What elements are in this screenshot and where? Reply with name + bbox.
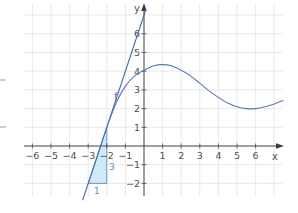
x-tick-label: −6 [25, 150, 39, 161]
y-tick-label: 3 [134, 84, 140, 95]
y-tick-label: 5 [134, 47, 140, 58]
x-tick-label: −5 [44, 150, 58, 161]
x-tick-label: −2 [100, 150, 114, 161]
x-tick-label: 2 [178, 150, 184, 161]
y-tick-label: −2 [126, 178, 140, 189]
x-axis-label: x [272, 151, 278, 162]
x-tick-label: 1 [160, 150, 166, 161]
x-axis-arrow-icon [276, 143, 284, 148]
curve-label-f: f [114, 91, 118, 102]
y-tick-label: −1 [126, 159, 140, 170]
triangle-rise-label: 3 [109, 162, 115, 172]
x-tick-label: 3 [197, 150, 203, 161]
x-tick-label: −4 [63, 150, 77, 161]
x-tick-label: 6 [253, 150, 259, 161]
y-axis-label: y [134, 3, 140, 14]
grid [24, 4, 282, 196]
x-tick-label: 5 [234, 150, 240, 161]
y-tick-label: 1 [134, 122, 140, 133]
function-graph: −6−5−4−3−2−1123456−2−1123456 x y f 1 3 [0, 0, 298, 213]
y-tick-label: 2 [134, 103, 140, 114]
x-tick-label: −3 [81, 150, 95, 161]
triangle-run-label: 1 [94, 186, 100, 196]
x-tick-label: 4 [215, 150, 221, 161]
